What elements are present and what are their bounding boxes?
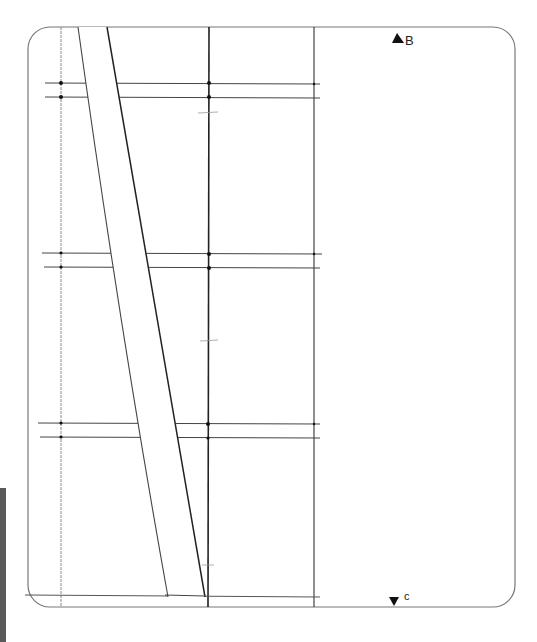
- grid-vertical-line: [208, 27, 209, 607]
- marker-label-b: B: [405, 33, 414, 48]
- horizontal-pair-middle: [42, 253, 322, 268]
- marker-label-c: c: [404, 590, 410, 602]
- curved-band-fill: [78, 27, 205, 597]
- horizontal-pair-lower: [38, 423, 320, 438]
- section-marker-b-icon: [392, 33, 404, 43]
- section-marker-c-icon: [389, 597, 399, 606]
- technical-drawing: [0, 0, 537, 642]
